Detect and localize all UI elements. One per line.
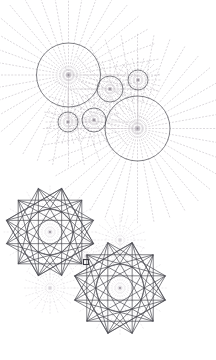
center-dot-big-circle-upper-left — [68, 74, 70, 76]
figure-canvas: Tangent circle and twelve-point star con… — [0, 0, 216, 360]
center-dot-guide-small-left-low — [49, 287, 51, 289]
center-dot-medium-circle-center — [109, 88, 111, 90]
star-center-dot — [119, 287, 121, 289]
star-center-dot — [49, 231, 51, 233]
center-dot-guide-small-between — [119, 239, 121, 241]
center-dot-small-circle-bottom — [67, 121, 69, 123]
center-dot-small-circle-mid-left — [93, 119, 95, 121]
center-dot-small-circle-top-right — [137, 79, 139, 81]
geometric-construction-svg — [0, 0, 216, 360]
center-dot-big-circle-right — [137, 128, 139, 130]
